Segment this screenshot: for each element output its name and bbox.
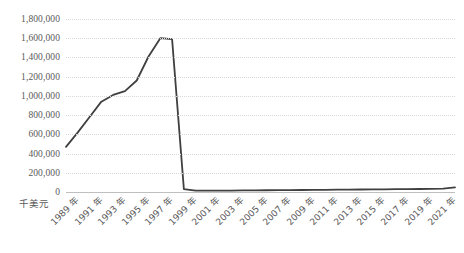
plot-area [66, 19, 455, 192]
y-axis-tick-label: 200,000 [28, 168, 60, 178]
line-chart: 1,800,0001,600,0001,400,0001,200,0001,00… [0, 0, 464, 253]
gridline [66, 154, 455, 155]
gridline [66, 115, 455, 116]
gridline [66, 57, 455, 58]
y-axis-tick-label: 1,800,000 [21, 14, 60, 24]
y-axis-tick-label: 1,000,000 [21, 91, 60, 101]
y-axis-tick-label: 1,600,000 [21, 33, 60, 43]
y-axis-tick-label: 800,000 [28, 110, 60, 120]
y-axis-title: 千美元 [19, 196, 49, 210]
y-axis: 1,800,0001,600,0001,400,0001,200,0001,00… [0, 0, 64, 210]
y-axis-tick-label: 600,000 [28, 129, 60, 139]
y-axis-tick-label: 1,200,000 [21, 72, 60, 82]
gridline [66, 134, 455, 135]
y-axis-tick-label: 1,400,000 [21, 52, 60, 62]
gridline [66, 19, 455, 20]
gridline [66, 173, 455, 174]
series-line [66, 19, 455, 192]
y-axis-tick-label: 0 [55, 187, 60, 197]
x-axis: 1989 年1991 年1993 年1995 年1997 年1999 年2001… [66, 192, 455, 253]
gridline [66, 77, 455, 78]
gridline [66, 38, 455, 39]
gridline [66, 96, 455, 97]
y-axis-tick-label: 400,000 [28, 149, 60, 159]
